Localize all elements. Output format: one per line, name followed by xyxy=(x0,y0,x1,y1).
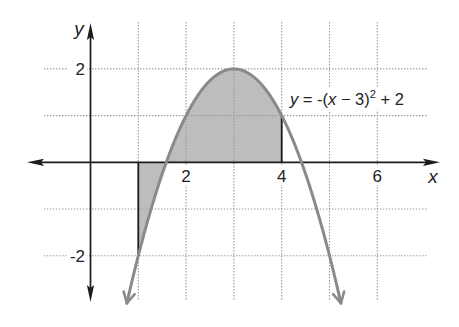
y-tick-label: -2 xyxy=(70,247,85,266)
equation-label: y = -(x − 3)2 + 2 xyxy=(289,88,404,108)
y-tick-label: 2 xyxy=(76,60,85,79)
function-graph: 2-2246xyy = -(x − 3)2 + 2 xyxy=(0,0,459,327)
x-tick-label: 2 xyxy=(181,167,190,186)
x-axis-label: x xyxy=(427,166,439,187)
equation-part2: − 3) xyxy=(336,90,369,108)
equation-part1: = -( xyxy=(298,90,328,108)
x-tick-label: 6 xyxy=(373,167,382,186)
y-axis-label: y xyxy=(72,18,85,39)
equation-part3: + 2 xyxy=(376,90,404,108)
x-tick-label: 4 xyxy=(277,167,286,186)
figure-canvas: 2-2246xyy = -(x − 3)2 + 2 xyxy=(0,0,459,327)
